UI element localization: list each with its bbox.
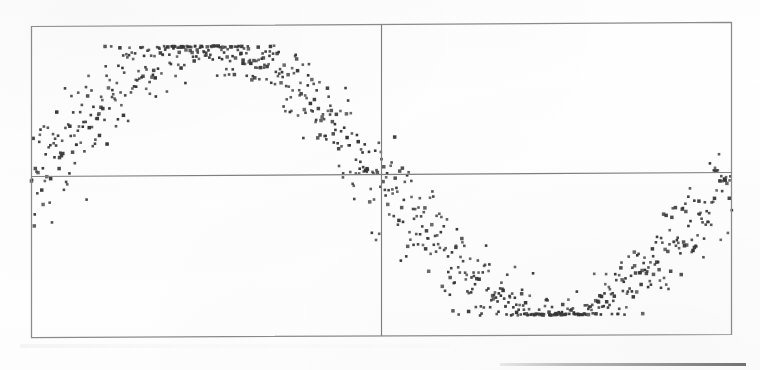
- figure-root: Dense scatter of a single noisy sinusoid…: [0, 0, 760, 370]
- chart-description: Dense scatter of a single noisy sinusoid…: [0, 0, 1, 1]
- scan-smudge-artifact: [20, 344, 450, 348]
- paper-grain-overlay: [0, 0, 760, 370]
- scan-line-artifact: [500, 363, 746, 366]
- zero-axis-line: [32, 173, 732, 177]
- scatter-plot-canvas: [0, 0, 760, 370]
- plot-frame-svg: [31, 22, 732, 338]
- plot-frame: [31, 22, 732, 338]
- plot-border: [32, 23, 732, 338]
